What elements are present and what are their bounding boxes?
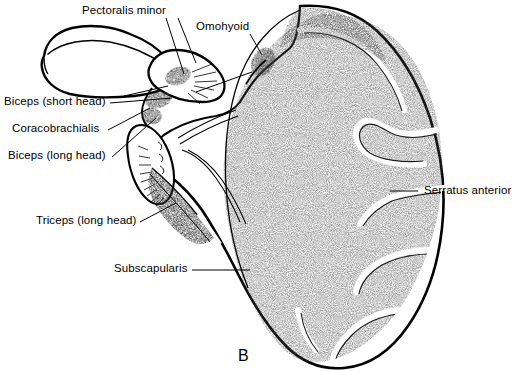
label-triceps-long-head: Triceps (long head)	[36, 214, 137, 227]
label-pectoralis-minor: Pectoralis minor	[82, 4, 166, 17]
scapula-figure: Pectoralis minor Omohyoid Biceps (short …	[0, 0, 514, 371]
label-biceps-short-head: Biceps (short head)	[4, 95, 106, 108]
label-omohyoid: Omohyoid	[196, 20, 249, 33]
figure-letter: B	[238, 347, 249, 365]
subscapularis-stipple-region	[210, 0, 460, 371]
label-serratus-anterior: Serratus anterior	[424, 184, 511, 197]
label-coracobrachialis: Coracobrachialis	[12, 122, 99, 135]
label-biceps-long-head: Biceps (long head)	[8, 149, 106, 162]
label-subscapularis: Subscapularis	[114, 262, 188, 275]
